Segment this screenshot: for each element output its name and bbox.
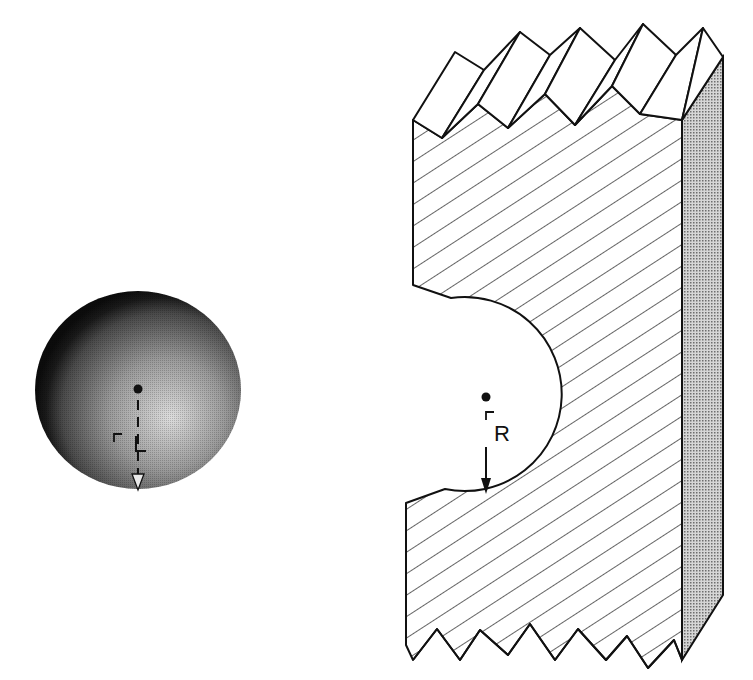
sphere-center-dot [134,385,143,394]
diagram-canvas: L R [0,0,753,680]
block-front-hatch [406,86,682,668]
cavity-label-prefix-mark [486,412,494,420]
sphere: L [35,291,241,490]
block: R [406,24,723,668]
cavity-center-dot [482,393,491,402]
block-side-face [682,57,723,660]
cavity-radius-label: R [494,421,510,446]
